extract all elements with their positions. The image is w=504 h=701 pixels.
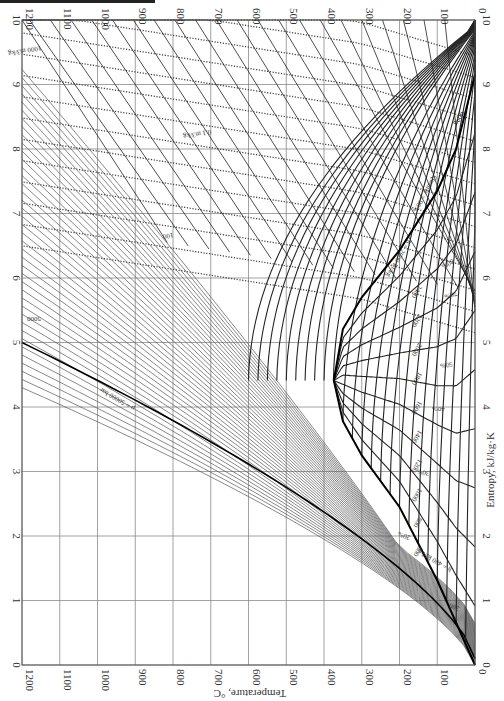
entropy-tick-left: 7 [11, 211, 23, 217]
temperature-tick-top: 400 [326, 8, 338, 25]
ts-diagram: 90%Quality = 90%80%70%50%40%30%20%h = 40… [0, 0, 504, 701]
temperature-tick-top: 900 [137, 8, 149, 25]
temperature-tick-bottom: 1100 [62, 669, 74, 691]
line-label: 800 [411, 516, 423, 530]
enthalpy-line [277, 20, 475, 381]
enthalpy-line [315, 20, 475, 381]
temperature-tick-top: 700 [213, 8, 225, 25]
temperature-tick-bottom: 500 [288, 669, 300, 686]
temperature-axis-label: Temperature, °C [214, 688, 287, 700]
enthalpy-line-superheated [196, 20, 355, 272]
temperature-tick-top: 1100 [62, 8, 74, 30]
entropy-tick-right: 5 [481, 340, 493, 346]
entropy-axis-label: Entropy, kJ/kg·K [484, 432, 496, 508]
entropy-tick-left: 2 [11, 533, 23, 539]
entropy-tick-right: 4 [481, 404, 493, 410]
enthalpy-line-superheated [258, 20, 417, 281]
line-label: p = 50000 bar [98, 385, 136, 412]
enthalpy-line [267, 20, 475, 381]
entropy-tick-left: 1 [11, 598, 23, 604]
entropy-tick-left: 4 [11, 404, 23, 410]
temperature-tick-bottom: 700 [213, 669, 225, 686]
temperature-tick-bottom: 900 [137, 669, 149, 686]
enthalpy-line [437, 20, 475, 581]
temperature-tick-top: 600 [251, 8, 263, 25]
enthalpy-line-superheated [22, 20, 167, 243]
entropy-tick-left: 0 [11, 662, 23, 668]
entropy-tick-right: 9 [481, 82, 493, 88]
line-label: 1000 m3/kg [7, 44, 42, 58]
entropy-tick-left: 6 [11, 275, 23, 281]
temperature-tick-top: 100 [439, 8, 451, 25]
line-label: 1600 [409, 400, 423, 417]
temperature-tick-top: 1000 [100, 8, 112, 31]
temperature-tick-bottom: 800 [175, 669, 187, 686]
chart-canvas: 90%Quality = 90%80%70%50%40%30%20%h = 40… [0, 0, 504, 701]
entropy-tick-right: 2 [481, 533, 493, 539]
line-label: 50% [439, 360, 453, 370]
temperature-tick-bottom: 0 [477, 669, 489, 675]
line-label: 1800 [409, 371, 423, 388]
entropy-tick-left: 8 [11, 146, 23, 152]
line-label: 5000 [26, 315, 41, 323]
line-label: 100 [162, 231, 174, 241]
temperature-tick-bottom: 600 [251, 669, 263, 686]
entropy-tick-left: 9 [11, 82, 23, 88]
entropy-tick-right: 10 [481, 15, 493, 27]
temperature-tick-top: 0 [477, 8, 489, 14]
entropy-tick-right: 1 [481, 598, 493, 604]
temperature-tick-bottom: 100 [439, 669, 451, 686]
enthalpy-line [305, 20, 475, 381]
enthalpy-line-superheated [92, 20, 251, 255]
entropy-tick-right: 8 [481, 146, 493, 152]
line-label: 0.1 m3/kg [182, 128, 212, 141]
temperature-tick-top: 200 [402, 8, 414, 25]
line-label: 70% [443, 289, 458, 301]
enthalpy-line-superheated [133, 20, 292, 262]
temperature-tick-bottom: 300 [364, 669, 376, 686]
enthalpy-line-superheated [154, 20, 313, 265]
entropy-tick-right: 0 [481, 662, 493, 668]
temperature-tick-bottom: 200 [402, 669, 414, 686]
temperature-tick-top: 500 [288, 8, 300, 25]
line-label: 2000 [409, 342, 423, 359]
temperature-tick-bottom: 1000 [100, 669, 112, 692]
line-label: 90% [451, 109, 466, 126]
temperature-tick-bottom: 400 [326, 669, 338, 686]
entropy-tick-left: 3 [11, 469, 23, 475]
temperature-tick-top: 300 [364, 8, 376, 25]
line-label: 40% [432, 405, 445, 413]
enthalpy-line [286, 20, 475, 381]
entropy-tick-left: 10 [11, 15, 23, 27]
entropy-tick-left: 5 [11, 340, 23, 346]
entropy-tick-right: 7 [481, 211, 493, 217]
temperature-tick-top: 1200 [24, 8, 36, 31]
temperature-tick-bottom: 1200 [24, 669, 36, 692]
line-label: 20% [397, 530, 412, 542]
temperature-tick-top: 800 [175, 8, 187, 25]
entropy-tick-right: 6 [481, 275, 493, 281]
